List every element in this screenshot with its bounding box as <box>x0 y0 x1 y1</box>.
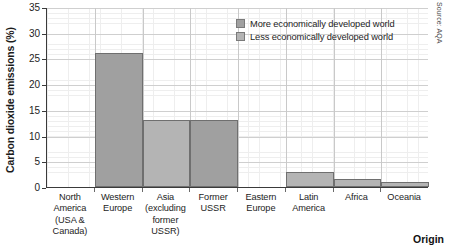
x-tick-line: Western <box>94 192 142 203</box>
x-tick-line: Former <box>189 192 237 203</box>
x-tick-line: (USA & <box>46 215 94 226</box>
x-tick-line: America <box>46 203 94 214</box>
y-tick-mark <box>42 111 46 112</box>
y-tick-mark <box>42 34 46 35</box>
bar <box>286 172 334 187</box>
x-tick-line: Eastern <box>237 192 285 203</box>
x-tick-label: Asia(excludingformerUSSR) <box>142 192 190 238</box>
x-tick-line: Asia <box>142 192 190 203</box>
x-tick-line: former <box>142 215 190 226</box>
bar <box>95 53 143 187</box>
y-tick-label: 25 <box>16 54 40 64</box>
bar <box>190 120 238 187</box>
y-tick-label: 10 <box>16 132 40 142</box>
y-tick-mark <box>42 85 46 86</box>
x-tick-line: USSR <box>189 203 237 214</box>
x-tick-label: LatinAmerica <box>285 192 333 215</box>
y-tick-label: 5 <box>16 157 40 167</box>
x-tick-line: Africa <box>333 192 381 203</box>
x-tick-mark <box>94 188 95 192</box>
legend-item: Less economically developed world <box>236 30 395 43</box>
x-tick-mark <box>237 188 238 192</box>
chart-figure: Carbon dioxide emissions (%) Source: AQA… <box>0 0 452 251</box>
y-tick-label: 0 <box>16 183 40 193</box>
legend-item: More economically developed world <box>236 17 395 30</box>
x-tick-label: Africa <box>333 192 381 203</box>
legend-label: Less economically developed world <box>250 32 393 42</box>
chart-legend: More economically developed worldLess ec… <box>236 17 395 43</box>
y-tick-label: 20 <box>16 80 40 90</box>
y-tick-label: 30 <box>16 29 40 39</box>
x-tick-line: Europe <box>237 203 285 214</box>
x-tick-label: Oceania <box>380 192 428 203</box>
legend-swatch-icon <box>236 19 245 28</box>
y-tick-mark <box>42 162 46 163</box>
source-credit: Source: AQA <box>431 2 443 58</box>
legend-swatch-icon <box>236 32 245 41</box>
x-tick-line: Canada) <box>46 226 94 237</box>
x-tick-mark <box>333 188 334 192</box>
y-tick-mark <box>42 8 46 9</box>
y-tick-label: 15 <box>16 106 40 116</box>
legend-label: More economically developed world <box>250 19 395 29</box>
x-tick-label: WesternEurope <box>94 192 142 215</box>
bar <box>143 120 191 187</box>
x-tick-mark <box>142 188 143 192</box>
x-tick-line: Latin <box>285 192 333 203</box>
x-axis-title: Origin <box>413 233 444 245</box>
x-tick-line: America <box>285 203 333 214</box>
x-tick-label: NorthAmerica(USA &Canada) <box>46 192 94 238</box>
x-tick-label: EasternEurope <box>237 192 285 215</box>
x-tick-mark <box>189 188 190 192</box>
x-tick-line: USSR) <box>142 226 190 237</box>
y-tick-label: 35 <box>16 3 40 13</box>
x-tick-mark <box>285 188 286 192</box>
bar <box>334 179 382 187</box>
y-tick-mark <box>42 137 46 138</box>
x-tick-label: FormerUSSR <box>189 192 237 215</box>
y-tick-mark <box>42 188 46 189</box>
y-tick-mark <box>42 59 46 60</box>
bar <box>381 182 429 187</box>
x-tick-line: (excluding <box>142 203 190 214</box>
x-tick-mark <box>380 188 381 192</box>
x-tick-line: Europe <box>94 203 142 214</box>
x-tick-line: Oceania <box>380 192 428 203</box>
x-tick-line: North <box>46 192 94 203</box>
